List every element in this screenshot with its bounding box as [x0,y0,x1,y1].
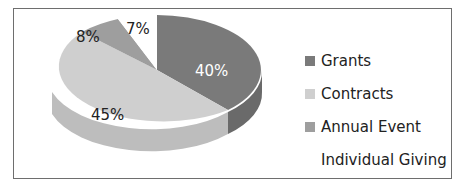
legend-swatch [305,89,315,99]
legend-label: Individual Giving [321,151,447,169]
legend-label: Grants [321,52,371,70]
label-annual-event: 8% [76,28,100,46]
legend-swatch [305,56,315,66]
legend-label: Annual Event [321,118,421,136]
legend: Grants Contracts Annual Event Individual… [305,44,447,176]
legend-swatch [305,122,315,132]
legend-label: Contracts [321,85,393,103]
label-grants: 40% [195,62,228,80]
legend-swatch [305,155,315,165]
legend-item-contracts: Contracts [305,77,447,110]
label-contracts: 45% [91,106,124,124]
legend-item-grants: Grants [305,44,447,77]
legend-item-individual-giving: Individual Giving [305,143,447,176]
label-individual-giving: 7% [126,20,150,38]
legend-item-annual-event: Annual Event [305,110,447,143]
